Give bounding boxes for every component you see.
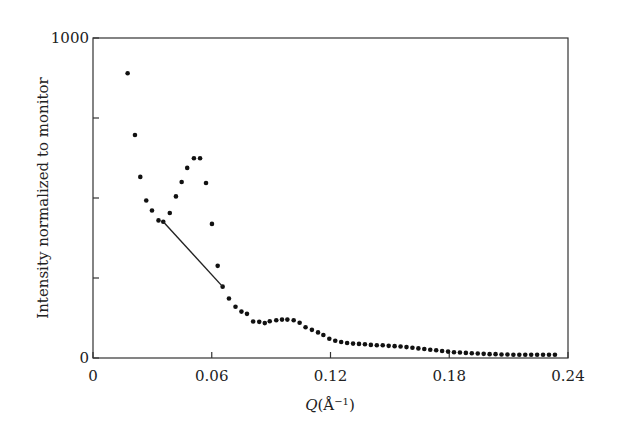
data-point bbox=[386, 344, 391, 349]
data-point bbox=[547, 353, 552, 358]
data-point bbox=[179, 180, 184, 185]
data-point bbox=[410, 345, 415, 350]
data-point bbox=[316, 330, 321, 335]
data-point bbox=[487, 352, 492, 357]
scatter-chart: 01000 00.060.120.180.24 Intensity normal… bbox=[0, 0, 618, 433]
data-point bbox=[434, 348, 439, 353]
data-point bbox=[233, 305, 238, 310]
data-point bbox=[198, 156, 203, 161]
y-axis-ticks: 01000 bbox=[51, 29, 99, 367]
data-point bbox=[523, 353, 528, 358]
data-point bbox=[351, 341, 356, 346]
data-point bbox=[291, 318, 296, 323]
data-point bbox=[274, 318, 279, 323]
data-point bbox=[333, 338, 338, 343]
x-tick-label: 0.12 bbox=[314, 367, 347, 385]
data-point bbox=[185, 166, 190, 171]
y-tick-label: 0 bbox=[79, 349, 89, 367]
data-point bbox=[138, 175, 143, 180]
data-point bbox=[144, 198, 149, 203]
data-point bbox=[297, 321, 302, 326]
data-point bbox=[535, 353, 540, 358]
data-point bbox=[440, 349, 445, 354]
x-tick-label: 0.18 bbox=[433, 367, 466, 385]
x-tick-label: 0.24 bbox=[551, 367, 584, 385]
x-axis-label: Q(Å−1) bbox=[305, 396, 355, 415]
x-tick-label: 0 bbox=[88, 367, 98, 385]
data-point bbox=[541, 353, 546, 358]
data-point bbox=[375, 343, 380, 348]
data-point bbox=[505, 352, 510, 357]
x-axis-ticks: 00.060.120.180.24 bbox=[88, 352, 584, 385]
data-point bbox=[251, 319, 256, 324]
data-point bbox=[398, 344, 403, 349]
data-point bbox=[363, 342, 368, 347]
data-point bbox=[285, 317, 290, 322]
data-point bbox=[422, 347, 427, 352]
data-point bbox=[267, 319, 272, 324]
data-point bbox=[239, 309, 244, 314]
data-point bbox=[204, 181, 209, 186]
data-point bbox=[511, 353, 516, 358]
data-point bbox=[428, 347, 433, 352]
data-point bbox=[125, 71, 130, 76]
data-point bbox=[210, 222, 215, 227]
data-point bbox=[257, 320, 262, 325]
data-point bbox=[156, 218, 161, 223]
data-point bbox=[493, 352, 498, 357]
data-point bbox=[464, 351, 469, 356]
data-point bbox=[345, 341, 350, 346]
data-point bbox=[369, 343, 374, 348]
data-point bbox=[262, 321, 267, 326]
y-axis-label: Intensity normalized to monitor bbox=[34, 76, 52, 318]
data-point bbox=[245, 312, 250, 317]
data-point bbox=[227, 296, 232, 301]
data-point bbox=[499, 352, 504, 357]
data-point bbox=[517, 353, 522, 358]
data-point bbox=[392, 344, 397, 349]
data-point bbox=[452, 350, 457, 355]
data-point bbox=[310, 328, 315, 333]
data-point bbox=[167, 211, 172, 216]
data-point bbox=[380, 343, 385, 348]
data-point bbox=[446, 349, 451, 354]
data-point bbox=[339, 340, 344, 345]
x-tick-label: 0.06 bbox=[195, 367, 228, 385]
data-point bbox=[481, 352, 486, 357]
data-point bbox=[215, 264, 220, 269]
data-point bbox=[416, 346, 421, 351]
data-point bbox=[303, 325, 308, 330]
data-point bbox=[475, 351, 480, 356]
data-point bbox=[458, 350, 463, 355]
data-point bbox=[192, 156, 197, 161]
data-point bbox=[133, 133, 138, 138]
data-point bbox=[280, 317, 285, 322]
data-points bbox=[125, 71, 557, 357]
annotation-lines bbox=[163, 222, 222, 287]
data-point bbox=[327, 337, 332, 342]
data-point bbox=[357, 342, 362, 347]
plot-frame bbox=[93, 38, 568, 358]
connector-line bbox=[163, 222, 222, 287]
data-point bbox=[529, 353, 534, 358]
data-point bbox=[150, 208, 155, 213]
data-point bbox=[404, 345, 409, 350]
y-tick-label: 1000 bbox=[51, 29, 89, 47]
data-point bbox=[174, 194, 179, 199]
data-point bbox=[321, 333, 326, 338]
data-point bbox=[470, 351, 475, 356]
data-point bbox=[553, 353, 558, 358]
